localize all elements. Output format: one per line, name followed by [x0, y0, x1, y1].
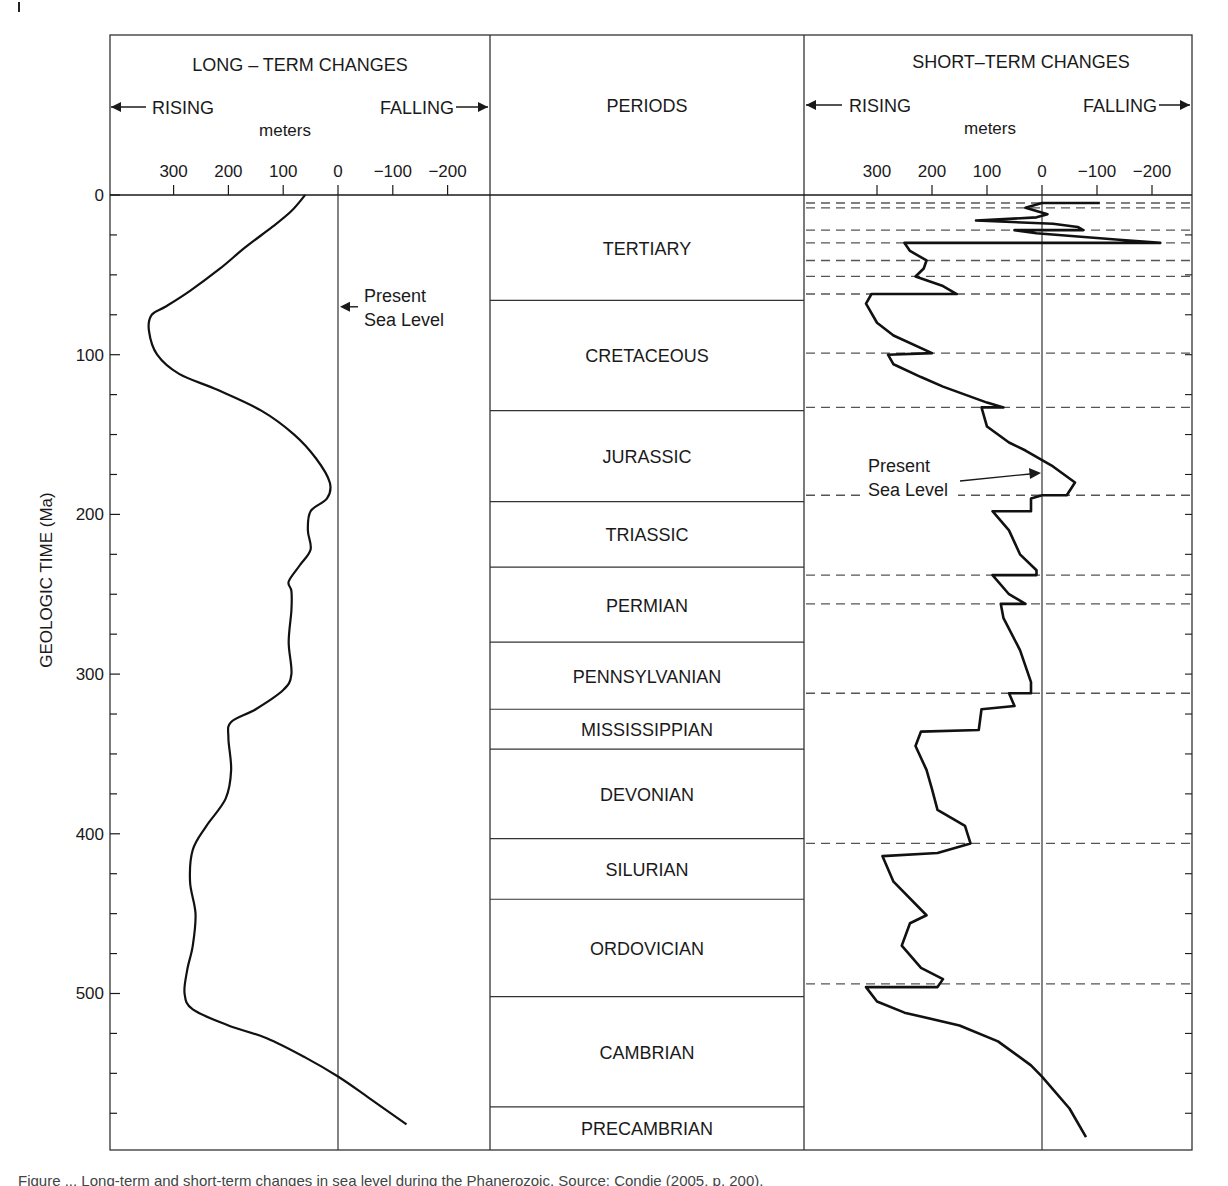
long-term-title: LONG – TERM CHANGES [192, 55, 408, 75]
x-tick-label: −100 [1078, 162, 1116, 181]
y-tick-label: 500 [76, 984, 104, 1003]
chart-headers: LONG – TERM CHANGESPERIODSSHORT–TERM CHA… [111, 52, 1190, 140]
right-arrow-icon [1029, 468, 1041, 479]
x-tick-label: 300 [863, 162, 891, 181]
y-tick-label: 0 [95, 186, 104, 205]
y-tick-label: 300 [76, 665, 104, 684]
x-tick-label: 300 [159, 162, 187, 181]
period-precambrian: PRECAMBRIAN [581, 1119, 713, 1139]
meters-label: meters [259, 121, 311, 140]
y-axis-title: GEOLOGIC TIME (Ma) [37, 492, 56, 667]
period-tertiary: TERTIARY [603, 239, 691, 259]
x-tick-label: 200 [918, 162, 946, 181]
period-pennsylvanian: PENNSYLVANIAN [573, 667, 721, 687]
y-tick-label: 200 [76, 505, 104, 524]
meters-label: meters [964, 119, 1016, 138]
rising-label: RISING [152, 98, 214, 118]
period-cretaceous: CRETACEOUS [585, 346, 709, 366]
long_term-curve [149, 195, 407, 1124]
x-tick-label: 200 [214, 162, 242, 181]
period-silurian: SILURIAN [605, 860, 688, 880]
chart-frame [110, 35, 1192, 1150]
x-tick-label: −200 [1133, 162, 1171, 181]
sea-level-chart: LONG – TERM CHANGESPERIODSSHORT–TERM CHA… [0, 0, 1228, 1160]
x-tick-label: 0 [333, 162, 342, 181]
present-label: Present [364, 286, 426, 306]
outer-frame [110, 35, 1192, 1150]
y-tick-label: 100 [76, 346, 104, 365]
x-tick-label: −200 [428, 162, 466, 181]
period-jurassic: JURASSIC [602, 447, 691, 467]
sea-level-label: Sea Level [868, 480, 948, 500]
x-tick-label: −100 [374, 162, 412, 181]
chart-axes: 3002001000−100−2003002001000−100−2000100… [37, 162, 1192, 1150]
annotations: PresentSea LevelPresentSea Level [340, 286, 1041, 500]
x-tick-label: 100 [973, 162, 1001, 181]
x-tick-label: 100 [269, 162, 297, 181]
periods-column: TERTIARYCRETACEOUSJURASSICTRIASSICPERMIA… [490, 239, 804, 1140]
period-cambrian: CAMBRIAN [599, 1043, 694, 1063]
period-mississippian: MISSISSIPPIAN [581, 720, 713, 740]
short-term-boundaries [806, 203, 1192, 984]
figure-caption: Figure ... Long-term and short-term chan… [18, 1166, 1218, 1186]
period-permian: PERMIAN [606, 596, 688, 616]
left-arrow-icon [340, 302, 350, 312]
short_term-curve [866, 203, 1160, 1137]
period-devonian: DEVONIAN [600, 785, 694, 805]
present-label: Present [868, 456, 930, 476]
rising-label: RISING [849, 96, 911, 116]
y-tick-label: 400 [76, 825, 104, 844]
short-term-title: SHORT–TERM CHANGES [912, 52, 1130, 72]
falling-label: FALLING [380, 98, 454, 118]
x-tick-label: 0 [1037, 162, 1046, 181]
period-ordovician: ORDOVICIAN [590, 939, 704, 959]
period-triassic: TRIASSIC [605, 525, 688, 545]
falling-label: FALLING [1083, 96, 1157, 116]
periods-title: PERIODS [606, 96, 687, 116]
sea-level-label: Sea Level [364, 310, 444, 330]
